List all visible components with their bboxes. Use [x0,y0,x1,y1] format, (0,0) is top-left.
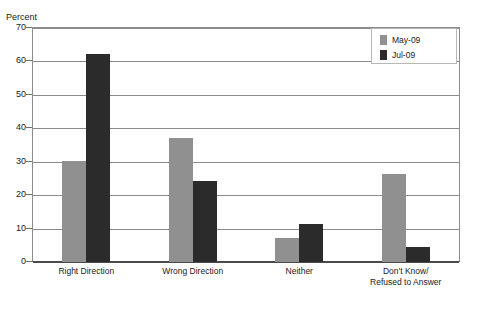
y-axis: 010203040506070 [0,27,32,262]
bar [62,161,86,262]
x-axis-category-label-line: Refused to Answer [353,277,460,288]
y-tick-label: 30 [4,157,26,166]
bar [406,247,430,262]
bar [299,224,323,262]
x-axis-category-label: Wrong Direction [140,266,247,277]
x-axis-category-label-line: Don't Know/ [353,266,460,277]
y-tick-label: 10 [4,224,26,233]
legend-item: May-09 [380,33,456,46]
x-axis-category-label-line: Wrong Direction [140,266,247,277]
legend-label: May-09 [392,35,420,45]
bar [86,54,110,262]
gridline [33,262,459,263]
y-tick-label: 0 [4,257,26,266]
bar-chart: Percent 010203040506070 Right DirectionW… [0,0,484,310]
legend-label: Jul-09 [392,50,415,60]
cropped-title-sliver [10,0,470,4]
chart-legend: May-09Jul-09 [371,28,457,64]
bar [275,238,299,262]
x-axis-category-label: Right Direction [33,266,140,277]
bar [169,138,193,262]
x-axis-category-label-line: Neither [246,266,353,277]
legend-swatch [380,35,387,45]
legend-swatch [380,50,387,60]
x-axis-category-label: Don't Know/Refused to Answer [353,266,460,288]
legend-item: Jul-09 [380,48,456,61]
x-axis-category-label-line: Right Direction [33,266,140,277]
y-tick-label: 50 [4,90,26,99]
y-tick-label: 70 [4,23,26,32]
y-tick-label: 60 [4,56,26,65]
x-axis-category-label: Neither [246,266,353,277]
bar [382,174,406,262]
bar [193,181,217,262]
x-axis-labels: Right DirectionWrong DirectionNeitherDon… [33,266,459,308]
y-tick-label: 20 [4,190,26,199]
y-tick-label: 40 [4,123,26,132]
